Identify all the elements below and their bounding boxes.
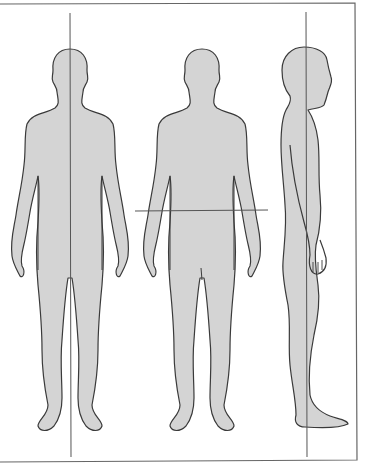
- diagram-canvas: [0, 0, 365, 467]
- side-figure: [281, 47, 348, 428]
- middle-figure: [143, 49, 260, 431]
- body-planes-diagram: [0, 0, 365, 467]
